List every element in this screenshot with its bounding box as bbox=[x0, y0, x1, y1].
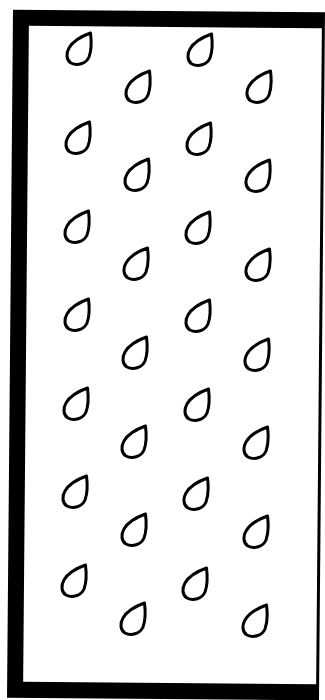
raindrop-outline-icon bbox=[243, 337, 271, 373]
raindrop-outline-icon bbox=[60, 563, 88, 599]
raindrop-outline-icon bbox=[244, 158, 272, 194]
raindrop-outline-icon bbox=[64, 120, 92, 156]
raindrop-outline-icon bbox=[181, 566, 209, 602]
raindrop-outline-icon bbox=[120, 424, 148, 460]
raindrop-outline-icon bbox=[242, 425, 270, 461]
raindrop-outline-icon bbox=[186, 32, 214, 68]
raindrop-outline-icon bbox=[120, 512, 148, 548]
raindrop-outline-icon bbox=[63, 297, 91, 333]
raindrop-outline-icon bbox=[185, 121, 213, 157]
raindrop-outline-icon bbox=[245, 69, 273, 105]
raindrop-outline-icon bbox=[62, 386, 90, 422]
raindrop-outline-icon bbox=[241, 603, 269, 639]
raindrop-outline-icon bbox=[183, 387, 211, 423]
raindrop-outline-icon bbox=[244, 247, 272, 283]
raindrop-outline-icon bbox=[182, 476, 210, 512]
raindrop-outline-icon bbox=[242, 514, 270, 550]
raindrop-outline-icon bbox=[184, 210, 212, 246]
raindrop-outline-icon bbox=[121, 335, 149, 371]
raindrop-outline-icon bbox=[124, 69, 152, 105]
raindrop-outline-icon bbox=[123, 157, 151, 193]
raindrop-outline-icon bbox=[61, 474, 89, 510]
black-frame bbox=[7, 10, 325, 700]
raindrop-outline-icon bbox=[63, 209, 91, 245]
raindrop-outline-icon bbox=[119, 601, 147, 637]
raindrop-outline-icon bbox=[184, 298, 212, 334]
raindrop-outline-icon bbox=[65, 31, 93, 67]
raindrop-outline-icon bbox=[122, 246, 150, 282]
